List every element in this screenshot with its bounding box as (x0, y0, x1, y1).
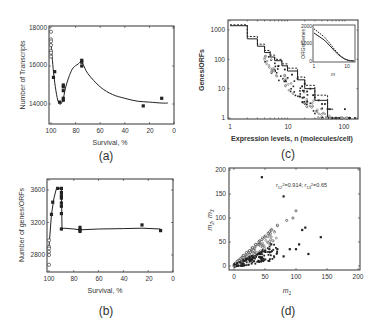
data-point-filled (60, 197, 63, 200)
data-point-open (295, 210, 297, 212)
data-point-filled (53, 70, 56, 73)
data-point (284, 69, 286, 71)
data-point (304, 83, 306, 85)
data-point-filled (52, 76, 55, 79)
data-point (291, 74, 293, 76)
data-point-open (286, 219, 288, 221)
data-point (297, 78, 299, 80)
panel-c-ylabel: Genes/ORFs (198, 49, 205, 91)
panel-d-xlabel: m1 (283, 287, 292, 296)
data-point-open (239, 258, 241, 260)
data-point-filled (258, 253, 260, 255)
data-point-filled (283, 195, 285, 197)
panel-d-ytick: 0 (222, 262, 226, 269)
data-point (278, 65, 280, 67)
data-point-filled (62, 99, 65, 102)
data-point-filled (62, 89, 65, 92)
panel-b-ylabel: Number of genes/ORFs (18, 188, 26, 262)
panel-a-ytick: 18000 (29, 24, 47, 31)
data-point-filled (320, 236, 322, 238)
data-point-open (47, 263, 50, 266)
data-point (324, 103, 326, 105)
data-point (331, 117, 333, 119)
data-point-open (276, 224, 278, 226)
panel-a-xtick: 20 (146, 127, 154, 134)
data-point-filled (80, 64, 83, 67)
data-point (301, 85, 303, 87)
panel-d-ytick: 150 (215, 190, 226, 197)
panel-c-ytick: 10 (218, 85, 226, 92)
data-point (344, 108, 346, 110)
panel-b-data (47, 187, 162, 267)
data-point-filled (60, 205, 63, 208)
data-point-filled (60, 227, 63, 230)
data-point-filled (142, 104, 145, 107)
panel-b: 3600 3200 2800 100 80 60 40 20 0 Surviva… (18, 179, 175, 318)
data-point-filled (295, 248, 297, 250)
data-point-filled (270, 243, 272, 245)
panel-d-annotation: r122=0.914; r132=0.65 (276, 182, 327, 190)
panel-b-frame (47, 179, 173, 272)
data-point-filled (60, 212, 63, 215)
panel-c: 1000 100 10 1 1 10 100 Expression levels… (198, 20, 358, 161)
data-point-open (258, 241, 260, 243)
panel-b-xtick: 20 (145, 275, 153, 282)
panel-b-xtick: 40 (120, 275, 128, 282)
panel-a-data (49, 30, 167, 107)
data-point (354, 117, 356, 119)
data-point-filled (239, 261, 241, 263)
panel-a-xtick: 40 (121, 127, 129, 134)
panel-b-xtick: 80 (70, 275, 78, 282)
data-point (314, 97, 316, 99)
data-point-open (261, 239, 263, 241)
data-point-filled (78, 230, 81, 233)
data-point-open (255, 243, 257, 245)
panel-b-xlabel: Survival, % (87, 287, 122, 294)
data-point-filled (252, 255, 254, 257)
panel-c-xtick: 10 (284, 123, 292, 130)
panel-b-xtick: 60 (95, 275, 103, 282)
fit-curve (51, 43, 168, 104)
data-point (312, 94, 314, 96)
data-point-filled (307, 253, 309, 255)
data-point-filled (283, 255, 285, 257)
panel-b-xtick: 0 (171, 275, 175, 282)
panel-a-ylabel: Number of Transcripts (19, 40, 27, 109)
data-point-open (248, 250, 250, 252)
inset-xtick: 1 (313, 63, 316, 69)
panel-d-ytick: 200 (215, 166, 226, 173)
inset-xtick: 10 (344, 63, 350, 69)
panel-a-xtick: 80 (72, 127, 80, 134)
data-point-filled (242, 259, 244, 261)
panel-c-ytick: 1 (221, 114, 225, 121)
panel-d-data (233, 176, 322, 267)
data-point-filled (261, 176, 263, 178)
data-point-open (49, 44, 52, 47)
data-point (318, 99, 320, 101)
data-point-filled (248, 256, 250, 258)
panel-a-ytick: 16000 (29, 61, 47, 68)
panel-c-ytick: 100 (214, 56, 225, 63)
data-point-filled (140, 223, 143, 226)
panel-d-xtick: 200 (353, 273, 364, 280)
panel-b-ytick: 2800 (31, 251, 46, 258)
data-point (306, 91, 308, 93)
inset-ytick: 2000 (301, 23, 312, 29)
panel-b-xtick: 100 (44, 275, 55, 282)
panel-a-xtick: 60 (96, 127, 104, 134)
data-point-open (49, 30, 52, 33)
panel-a-ytick: 14000 (29, 100, 47, 107)
data-point-open (49, 40, 52, 43)
panel-d-xtick: 0 (232, 273, 236, 280)
data-point-open (245, 251, 247, 253)
data-point-open (252, 247, 254, 249)
panel-d-xtick: 150 (322, 273, 333, 280)
data-point-filled (50, 213, 53, 216)
panel-a-frame (49, 26, 174, 124)
data-point-open (47, 253, 50, 256)
data-point-filled (301, 229, 303, 231)
data-point (321, 103, 323, 105)
data-point-open (242, 254, 244, 256)
panel-a-xtick: 0 (172, 127, 176, 134)
panel-d-label: (d) (281, 304, 296, 318)
